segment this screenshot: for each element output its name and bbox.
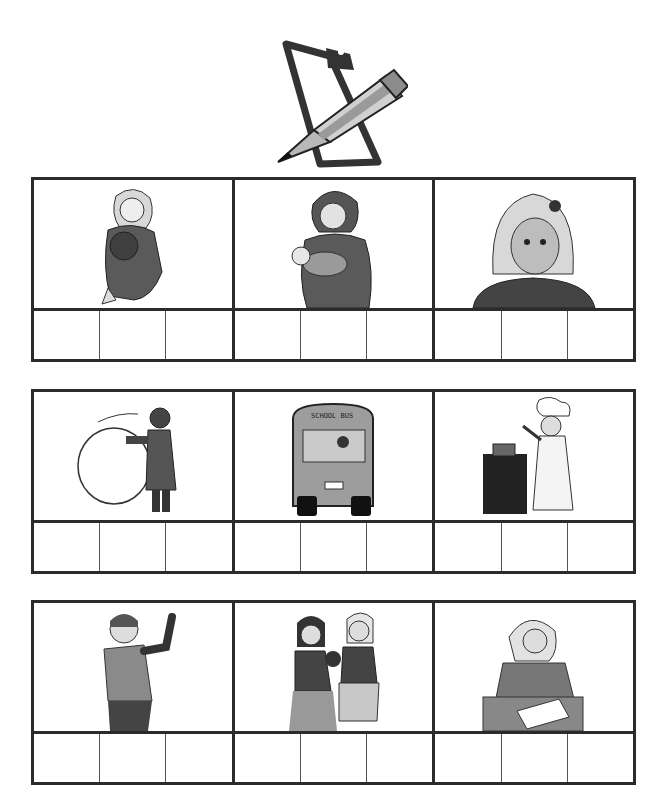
picture-girl-writing-at-desk [435,603,633,731]
answer-box[interactable] [435,523,501,571]
answer-box[interactable] [367,311,432,359]
answer-box[interactable] [568,734,633,782]
answer-box[interactable] [235,523,301,571]
mother-baby-illustration [269,184,399,308]
answer-box[interactable] [100,311,166,359]
answer-box[interactable] [502,523,568,571]
picture-child-rolling-snowball [34,392,235,520]
answer-box[interactable] [301,523,367,571]
picture-girls-fighting-over-teddy [235,603,436,731]
picture-girl-chef-cooking [435,392,633,520]
bus-sign: SCHOOL BUS [311,412,353,420]
answer-box[interactable] [235,734,301,782]
answer-box[interactable] [502,734,568,782]
picture-girl-hugging-teddy-bear [34,180,235,308]
answer-box[interactable] [502,311,568,359]
answer-box[interactable] [435,311,501,359]
answer-boxes-2-1 [34,523,235,571]
picture-crying-girl [435,180,633,308]
answer-boxes-1-1 [34,311,235,359]
crying-girl-illustration [469,184,599,308]
answer-box[interactable] [301,734,367,782]
girl-writing-illustration [469,607,599,731]
school-bus-illustration: SCHOOL BUS [269,396,399,520]
answer-box[interactable] [568,311,633,359]
answer-boxes-2-2 [235,523,436,571]
clipboard-pencil-icon [268,34,408,170]
answer-box[interactable] [367,523,432,571]
snowball-illustration [68,396,198,520]
answer-box[interactable] [301,311,367,359]
picture-mother-holding-baby [235,180,436,308]
answer-box[interactable] [235,311,301,359]
exercise-row-1 [31,177,636,362]
answer-box[interactable] [34,734,100,782]
exercise-row-3 [31,600,636,785]
answer-box[interactable] [568,523,633,571]
answer-box[interactable] [166,734,231,782]
answer-box[interactable] [367,734,432,782]
answer-box[interactable] [166,311,231,359]
girls-teddy-illustration [269,607,399,731]
answer-boxes-3-2 [235,734,436,782]
answer-box[interactable] [100,734,166,782]
answer-boxes-1-2 [235,311,436,359]
picture-school-bus: SCHOOL BUS [235,392,436,520]
answer-box[interactable] [34,523,100,571]
answer-box[interactable] [100,523,166,571]
exercise-row-2: SCHOOL BUS [31,389,636,574]
answer-boxes-3-1 [34,734,235,782]
chef-illustration [469,396,599,520]
answer-box[interactable] [34,311,100,359]
boy-flexing-illustration [68,607,198,731]
picture-boy-flexing-muscle [34,603,235,731]
girl-teddy-illustration [68,184,198,308]
answer-boxes-1-3 [435,311,633,359]
answer-boxes-2-3 [435,523,633,571]
answer-box[interactable] [166,523,231,571]
answer-box[interactable] [435,734,501,782]
answer-boxes-3-3 [435,734,633,782]
